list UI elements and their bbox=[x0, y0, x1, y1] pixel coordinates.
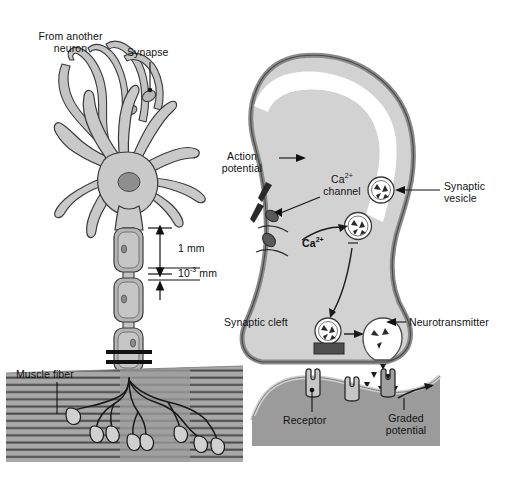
nucleus bbox=[118, 173, 140, 192]
synaptic-vesicle bbox=[315, 318, 341, 344]
label-muscle-fiber: Muscle fiber bbox=[16, 368, 74, 380]
label-ca-channel: Ca2+ channel bbox=[312, 172, 372, 197]
label-synaptic-vesicle: Synaptic vesicle bbox=[444, 180, 485, 205]
synapse-contact-dot bbox=[148, 88, 153, 93]
synaptic-vesicle bbox=[345, 213, 372, 240]
receptors bbox=[306, 369, 395, 401]
label-graded-potential: Graded potential bbox=[376, 412, 436, 437]
neuron-synapse-illustration bbox=[0, 0, 519, 479]
label-receptor: Receptor bbox=[283, 414, 326, 426]
label-from-another-neuron: From another neuron bbox=[18, 30, 123, 55]
label-synaptic-cleft: Synaptic cleft bbox=[224, 316, 288, 328]
figure-canvas: From another neuron Synapse 1 mm 10-3 mm… bbox=[0, 0, 519, 479]
receptor bbox=[306, 369, 320, 397]
label-neurotransmitter: Neurotransmitter bbox=[409, 316, 489, 328]
receptor-bound bbox=[381, 369, 395, 397]
label-action-potential: Action potential bbox=[206, 150, 278, 175]
myelin-segment bbox=[114, 228, 143, 272]
scale-indicators bbox=[148, 226, 200, 300]
presynaptic-neuron-panel bbox=[54, 41, 205, 378]
active-zone bbox=[314, 343, 344, 354]
myelin-segment bbox=[114, 278, 143, 322]
receptor bbox=[345, 377, 359, 401]
label-synapse: Synapse bbox=[127, 46, 169, 58]
label-scale-10e-3-mm: 10-3 mm bbox=[178, 266, 217, 279]
label-calcium-ion: Ca2+ bbox=[302, 236, 324, 249]
label-scale-1mm: 1 mm bbox=[178, 242, 205, 254]
axon-hillock bbox=[115, 206, 143, 230]
fusing-vesicle bbox=[363, 318, 402, 360]
